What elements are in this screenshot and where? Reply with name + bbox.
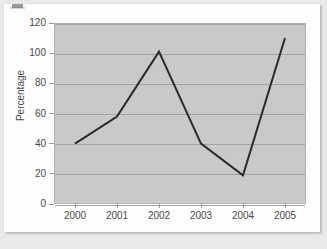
y-axis-tick-labels: 020406080100120 <box>4 4 46 232</box>
y-axis-tick-label: 20 <box>35 169 46 179</box>
document-page: Percentage 020406080100120 2000200120022… <box>4 4 320 232</box>
x-axis-tick-mark <box>159 204 160 208</box>
data-series-line <box>54 23 306 204</box>
paper-edge-shadow-bottom <box>6 232 322 235</box>
gridline <box>55 205 305 206</box>
x-axis-tick-label: 2003 <box>180 210 222 221</box>
x-axis-tick-mark <box>285 204 286 208</box>
screenshot-root: Percentage 020406080100120 2000200120022… <box>0 0 327 249</box>
x-axis-tick-label: 2004 <box>222 210 264 221</box>
y-axis-tick-label: 80 <box>35 78 46 88</box>
x-axis-tick-label: 2000 <box>54 210 96 221</box>
series-polyline <box>75 38 285 175</box>
y-axis-tick-label: 60 <box>35 109 46 119</box>
y-axis-tick-label: 0 <box>40 199 46 209</box>
x-axis-tick-mark <box>75 204 76 208</box>
y-axis-tick-label: 40 <box>35 139 46 149</box>
y-axis-tick-label: 120 <box>29 18 46 28</box>
x-axis-tick-label: 2002 <box>138 210 180 221</box>
paper-edge-shadow-right <box>320 6 323 234</box>
y-axis-tick-label: 100 <box>29 48 46 58</box>
x-axis-tick-labels: 200020012002200320042005 <box>4 210 320 230</box>
x-axis-tick-label: 2005 <box>264 210 306 221</box>
line-chart-figure: Percentage 020406080100120 2000200120022… <box>4 4 320 232</box>
x-axis-tick-mark <box>201 204 202 208</box>
x-axis-tick-mark <box>117 204 118 208</box>
x-axis-tick-mark <box>243 204 244 208</box>
x-axis-tick-label: 2001 <box>96 210 138 221</box>
